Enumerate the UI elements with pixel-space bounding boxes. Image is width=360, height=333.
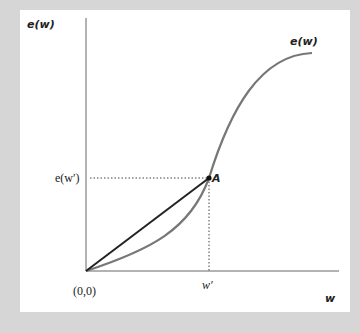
curve-label: e(w) bbox=[290, 35, 318, 48]
e-curve bbox=[86, 53, 312, 271]
x-tick-label: w′ bbox=[202, 278, 213, 293]
diagram-canvas bbox=[0, 0, 360, 333]
origin-label: (0,0) bbox=[73, 284, 96, 299]
point-a-dot bbox=[206, 175, 211, 180]
y-axis-label: e(w) bbox=[27, 18, 55, 31]
chord-line bbox=[86, 178, 209, 271]
point-a-label: A bbox=[212, 172, 221, 185]
y-tick-label: e(w′) bbox=[55, 171, 80, 186]
x-axis-label: w bbox=[325, 292, 335, 305]
